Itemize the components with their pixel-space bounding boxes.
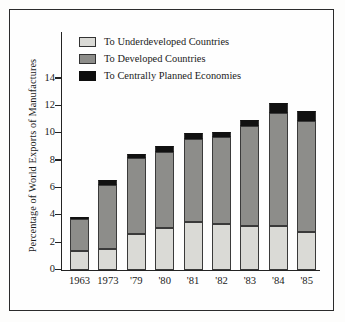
bar-segment-to-underdeveloped-countries (127, 234, 146, 270)
bar-segment-to-developed-countries (70, 219, 89, 250)
bar-segment-to-underdeveloped-countries (70, 251, 89, 270)
black-swatch-icon (79, 71, 96, 81)
chart-plot-area: Percentage of World Exports of Manufactu… (0, 0, 345, 322)
y-axis-tick-label: 2 (33, 237, 55, 247)
y-axis-tick-label: 14 (33, 73, 55, 83)
legend-item: To Centrally Planned Economies (79, 68, 241, 84)
bar-segment-to-developed-countries (297, 121, 316, 232)
y-axis-tick (55, 214, 62, 215)
y-axis-tick (55, 132, 62, 133)
bar-segment-to-developed-countries (269, 113, 288, 227)
legend-item-label: To Centrally Planned Economies (104, 70, 241, 81)
bar-segment-to-underdeveloped-countries (269, 226, 288, 270)
chart-legend: To Underdeveloped CountriesTo Developed … (79, 34, 241, 85)
bar-85 (297, 111, 316, 270)
bar-segment-to-underdeveloped-countries (240, 226, 259, 270)
bar-segment-to-developed-countries (212, 137, 231, 223)
legend-item-label: To Developed Countries (104, 53, 205, 64)
legend-item: To Underdeveloped Countries (79, 34, 241, 50)
y-axis-tick-label: 6 (33, 182, 55, 192)
y-axis-tick (55, 242, 62, 243)
bar-segment-to-developed-countries (184, 139, 203, 222)
bar-segment-to-developed-countries (155, 152, 174, 227)
bar-segment-to-centrally-planned-economies (297, 111, 316, 121)
bar-segment-to-underdeveloped-countries (184, 222, 203, 270)
bar-segment-to-underdeveloped-countries (98, 249, 117, 270)
bar-segment-to-underdeveloped-countries (155, 228, 174, 270)
y-axis-tick (55, 77, 62, 78)
legend-item: To Developed Countries (79, 51, 241, 67)
bar-segment-to-developed-countries (98, 185, 117, 249)
bar-80 (155, 146, 174, 270)
y-axis-tick (55, 105, 62, 106)
bar-83 (240, 120, 259, 270)
bar-79 (127, 154, 146, 270)
bar-81 (184, 133, 203, 270)
bar-1963 (70, 217, 89, 270)
y-axis-tick (55, 187, 62, 188)
bar-segment-to-underdeveloped-countries (297, 232, 316, 270)
y-axis-tick-label: 10 (33, 127, 55, 137)
bar-segment-to-developed-countries (127, 158, 146, 235)
y-axis-line (61, 32, 62, 270)
bar-82 (212, 132, 231, 270)
bar-segment-to-centrally-planned-economies (269, 103, 288, 113)
legend-item-label: To Underdeveloped Countries (104, 36, 229, 47)
y-axis-tick (55, 159, 62, 160)
x-axis-tick-label: '85 (287, 275, 327, 286)
y-axis-tick-label: 0 (33, 264, 55, 274)
bar-segment-to-underdeveloped-countries (212, 224, 231, 271)
y-axis-tick-label: 8 (33, 155, 55, 165)
y-axis-tick-label: 12 (33, 100, 55, 110)
y-axis-tick-label: 4 (33, 209, 55, 219)
bar-1973 (98, 180, 117, 270)
bar-84 (269, 103, 288, 270)
y-axis-tick (55, 269, 62, 270)
figure-container: Percentage of World Exports of Manufactu… (0, 0, 345, 322)
mid-gray-swatch-icon (79, 54, 96, 64)
bar-segment-to-developed-countries (240, 126, 259, 226)
light-gray-swatch-icon (79, 37, 96, 47)
